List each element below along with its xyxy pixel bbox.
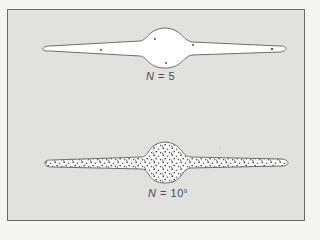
label-value: 5 (169, 70, 176, 82)
label-n-5: N = 5 (146, 70, 175, 82)
speck (220, 148, 221, 149)
label-equals: = (158, 70, 165, 82)
label-value: 10 (171, 187, 184, 199)
label-exponent: 9 (184, 188, 188, 194)
label-variable: N (148, 187, 156, 199)
label-variable: N (146, 70, 154, 82)
label-n-10e9: N = 109 (148, 187, 188, 199)
disk-shape-n1e9 (45, 142, 288, 183)
disk-shape-n5 (43, 28, 286, 68)
label-equals: = (160, 187, 167, 199)
